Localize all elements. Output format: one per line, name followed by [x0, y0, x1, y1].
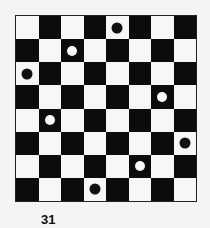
board-square [129, 39, 152, 62]
board-square [39, 109, 62, 132]
board-square [84, 109, 107, 132]
board-square [39, 16, 62, 39]
board-square [84, 16, 107, 39]
board-square [84, 62, 107, 85]
board-square [129, 155, 152, 178]
board-square [16, 109, 39, 132]
board-square [129, 132, 152, 155]
checkerboard [15, 15, 197, 202]
board-square [106, 109, 129, 132]
board-square [151, 109, 174, 132]
board-square [84, 155, 107, 178]
board-square [84, 132, 107, 155]
board-square [174, 132, 197, 155]
board-square [174, 16, 197, 39]
board-square [151, 155, 174, 178]
white-piece-icon [157, 92, 167, 102]
board-square [151, 178, 174, 201]
board-square [61, 85, 84, 108]
board-square [106, 178, 129, 201]
board-square [129, 109, 152, 132]
black-piece-icon [89, 184, 100, 195]
board-square [39, 62, 62, 85]
board-square [106, 39, 129, 62]
board-square [151, 85, 174, 108]
board-square [151, 62, 174, 85]
board-square [106, 16, 129, 39]
board-square [129, 62, 152, 85]
board-square [106, 132, 129, 155]
board-square [84, 39, 107, 62]
board-square [174, 155, 197, 178]
white-piece-icon [135, 161, 145, 171]
board-square [129, 16, 152, 39]
black-piece-icon [112, 22, 123, 33]
board-square [129, 178, 152, 201]
board-square [84, 178, 107, 201]
board-square [174, 39, 197, 62]
board-square [16, 62, 39, 85]
board-square [39, 132, 62, 155]
board-square [61, 39, 84, 62]
board-square [174, 109, 197, 132]
board-square [151, 16, 174, 39]
board-square [84, 85, 107, 108]
board-square [151, 132, 174, 155]
board-square [61, 62, 84, 85]
board-square [16, 178, 39, 201]
board-square [39, 85, 62, 108]
board-square [61, 178, 84, 201]
board-square [16, 85, 39, 108]
board-square [129, 85, 152, 108]
white-piece-icon [67, 46, 77, 56]
board-square [106, 85, 129, 108]
board-square [39, 155, 62, 178]
board-square [106, 155, 129, 178]
board-square [39, 39, 62, 62]
board-square [16, 39, 39, 62]
board-square [174, 62, 197, 85]
black-piece-icon [22, 68, 33, 79]
black-piece-icon [179, 138, 190, 149]
figure-number: 31 [41, 212, 55, 227]
board-square [39, 178, 62, 201]
white-piece-icon [45, 115, 55, 125]
board-square [61, 16, 84, 39]
board-square [151, 39, 174, 62]
board-square [16, 16, 39, 39]
board-square [61, 109, 84, 132]
board-square [61, 132, 84, 155]
board-square [61, 155, 84, 178]
board-square [174, 85, 197, 108]
board-square [16, 132, 39, 155]
board-square [174, 178, 197, 201]
board-square [16, 155, 39, 178]
board-square [106, 62, 129, 85]
